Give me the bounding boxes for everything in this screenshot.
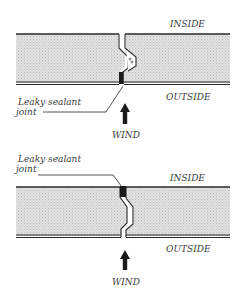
sealant-joint xyxy=(119,72,124,84)
wall-joint-illustration-bottom xyxy=(0,145,247,291)
label-sealant-line1: Leaky sealant xyxy=(18,154,81,164)
wind-arrow-icon xyxy=(120,250,130,270)
panel-right xyxy=(123,34,230,83)
label-outside: OUTSIDE xyxy=(166,92,210,102)
label-wind: WIND xyxy=(112,277,140,287)
label-wind: WIND xyxy=(112,130,140,140)
wall-joint-illustration-top xyxy=(0,0,247,145)
label-sealant-line2: joint xyxy=(16,107,37,117)
wind-arrow-icon xyxy=(120,103,130,124)
label-inside: INSIDE xyxy=(170,173,205,183)
label-sealant-line2: joint xyxy=(16,164,37,174)
label-sealant-line1: Leaky sealant xyxy=(18,97,81,107)
label-outside: OUTSIDE xyxy=(166,244,210,254)
diagram-bottom: Leaky sealant joint INSIDE OUTSIDE WIND xyxy=(0,145,247,291)
diagram-top: INSIDE OUTSIDE Leaky sealant joint WIND xyxy=(0,0,247,145)
leader-line xyxy=(38,175,122,187)
label-inside: INSIDE xyxy=(170,19,205,29)
panel-left xyxy=(16,34,125,83)
sealant-joint xyxy=(120,186,126,197)
